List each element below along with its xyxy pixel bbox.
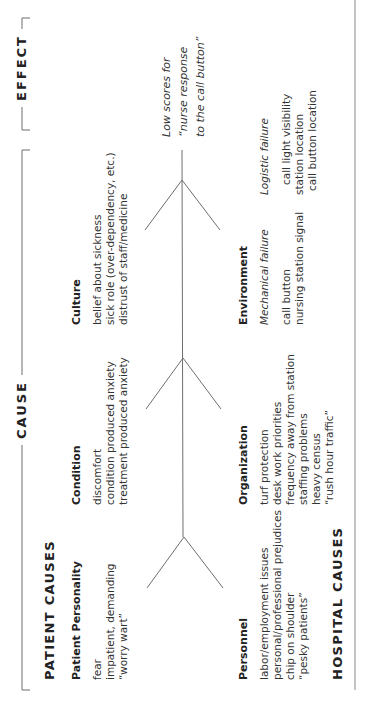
subcategory-label: Mechanical failure <box>258 205 270 325</box>
cause-item: distrust of staff/medicine <box>117 152 130 325</box>
cause-item: call button location <box>306 90 319 195</box>
effect-line: to the call button” <box>192 37 209 137</box>
patient-causes-label: PATIENT CAUSES <box>42 540 57 680</box>
category-title: Patient Personality <box>70 561 83 680</box>
cause-item: “worry wart” <box>117 561 130 680</box>
cause-item: personal/professional prejudices <box>271 510 284 680</box>
cause-item: discomfort <box>91 357 104 505</box>
rib-pair-condition-organization <box>146 358 221 409</box>
category-culture: Culture belief about sickness sick role … <box>70 152 130 325</box>
category-title: Personnel <box>237 510 250 680</box>
cause-item: staffing problems <box>297 354 310 505</box>
cause-item: belief about sickness <box>91 152 104 325</box>
category-title: Condition <box>70 357 83 505</box>
hospital-causes-label: HOSPITAL CAUSES <box>330 527 345 680</box>
cause-item: nursing station signal <box>293 205 306 325</box>
category-organization: Organization turf protection desk work p… <box>237 354 336 505</box>
effect-heading: EFFECT <box>14 29 29 107</box>
category-title: Organization <box>237 354 250 505</box>
category-title: Culture <box>70 152 83 325</box>
environment-logistic: Logistic failure call light visibility s… <box>258 90 319 195</box>
cause-item: call light visibility <box>280 90 293 195</box>
cause-item: condition produced anxiety <box>104 357 117 505</box>
cause-heading: CAUSE <box>14 375 29 445</box>
category-title: Environment <box>237 205 250 325</box>
category-patient-personality: Patient Personality fear impatient, dema… <box>70 561 130 680</box>
cause-item: desk work priorities <box>271 354 284 505</box>
category-condition: Condition discomfort condition produced … <box>70 357 130 505</box>
cause-item: chip on shoulder <box>284 510 297 680</box>
cause-item: “rush hour traffic” <box>323 354 336 505</box>
cause-item: labor/employment issues <box>258 510 271 680</box>
cause-item: heavy census <box>310 354 323 505</box>
cause-item: turf protection <box>258 354 271 505</box>
cause-item: call button <box>280 205 293 325</box>
category-personnel: Personnel labor/employment issues person… <box>237 510 310 680</box>
fishbone-diagram: CAUSE EFFECT Low scores for “nurse respo… <box>0 0 370 710</box>
effect-statement: Low scores for “nurse response to the ca… <box>158 37 209 137</box>
subcategory-label: Logistic failure <box>258 90 270 195</box>
cause-item: frequency away from station <box>284 354 297 505</box>
cause-item: station location <box>293 90 306 195</box>
cause-item: sick role (over-dependency, etc.) <box>104 152 117 325</box>
effect-line: Low scores for <box>158 37 175 137</box>
cause-item: “pesky patients” <box>297 510 310 680</box>
cause-item: impatient, demanding <box>104 561 117 680</box>
cause-item: fear <box>91 561 104 680</box>
rib-pair-personality-personnel <box>147 537 223 588</box>
cause-item: treatment produced anxiety <box>117 357 130 505</box>
category-environment: Environment Mechanical failure call butt… <box>237 205 306 325</box>
fishbone-spine <box>182 150 183 537</box>
environment-mechanical: Mechanical failure call button nursing s… <box>258 205 306 325</box>
effect-line: “nurse response <box>175 37 192 137</box>
